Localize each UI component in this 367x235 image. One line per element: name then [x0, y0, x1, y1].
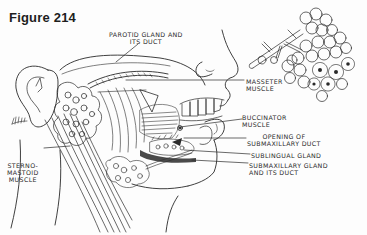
face-profile: [196, 30, 238, 106]
anatomy-illustration: [0, 0, 367, 235]
parotid-gland: [54, 82, 102, 145]
neck-outline: [11, 140, 178, 232]
leader-submaxillary: [192, 160, 248, 163]
parotid-duct: [88, 71, 168, 88]
teeth: [180, 98, 224, 121]
figure-page: Figure 214: [0, 0, 367, 235]
label-submaxillary-gland: SUBMAXILLARY GLAND AND ITS DUCT: [249, 162, 328, 176]
label-sternomastoid-muscle: STERNO- MASTOID MUSCLE: [7, 162, 39, 183]
head-outline: [60, 55, 205, 85]
sternomastoid-muscle: [45, 114, 132, 232]
leader-parotid: [116, 44, 138, 62]
label-buccinator-muscle: BUCCINATOR MUSCLE: [242, 114, 287, 128]
label-opening-submaxillary-duct: OPENING OF SUBMAXILLARY DUCT: [247, 133, 321, 147]
hair-marks: [12, 117, 27, 124]
label-parotid-gland: PAROTID GLAND AND ITS DUCT: [109, 31, 183, 45]
label-masseter-muscle: MASSETER MUSCLE: [246, 78, 283, 92]
tongue-tip: [200, 126, 212, 145]
label-sublingual-gland: SUBLINGUAL GLAND: [251, 152, 321, 159]
masseter-muscle: [98, 88, 158, 152]
buccinator-muscle: [140, 104, 179, 138]
